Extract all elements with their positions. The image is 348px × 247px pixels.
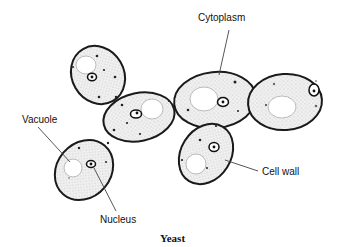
cell-wall-leader [225,160,258,171]
yeast-cell-5 [246,71,324,132]
vacuole-label: Vacuole [22,114,57,125]
cytoplasm-label: Cytoplasm [198,12,245,23]
vacuole-leader [38,127,70,162]
nucleus-label: Nucleus [100,214,136,225]
cell-wall-label: Cell wall [262,166,299,177]
cytoplasm-leader [219,30,229,75]
yeast-cell-6 [168,114,244,195]
diagram-title: Yeast [160,232,185,244]
yeast-cell-4 [171,68,258,132]
yeast-cell-3 [43,128,126,212]
